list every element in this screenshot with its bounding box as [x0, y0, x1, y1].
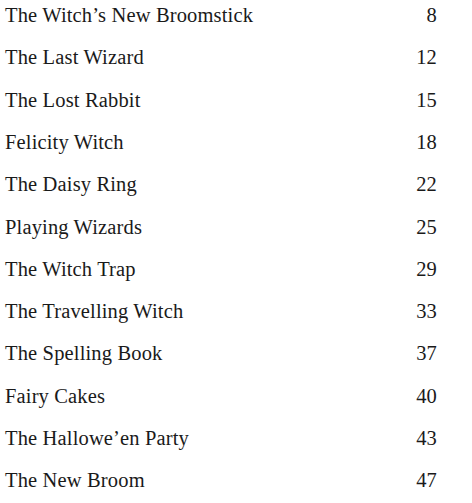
toc-entry-page-number: 47: [416, 470, 437, 491]
toc-entry[interactable]: The Hallowe’en Party 43: [0, 428, 472, 470]
toc-entry-page-number: 33: [416, 301, 437, 322]
toc-entry[interactable]: Playing Wizards 25: [0, 217, 472, 259]
toc-entry-title: The Witch Trap: [5, 259, 136, 280]
toc-entry[interactable]: The New Broom 47: [0, 470, 472, 503]
toc-entry[interactable]: The Spelling Book 37: [0, 343, 472, 385]
toc-entry[interactable]: Fairy Cakes 40: [0, 386, 472, 428]
toc-entry[interactable]: The Lost Rabbit 15: [0, 90, 472, 132]
toc-entry-page-number: 18: [416, 132, 437, 153]
toc-entry-title: The Hallowe’en Party: [5, 428, 189, 449]
toc-entry-title: Fairy Cakes: [5, 386, 105, 407]
toc-entry[interactable]: The Travelling Witch 33: [0, 301, 472, 343]
toc-entry-title: The Spelling Book: [5, 343, 162, 364]
toc-entry-page-number: 43: [416, 428, 437, 449]
toc-entry-title: The New Broom: [5, 470, 145, 491]
toc-entry[interactable]: The Daisy Ring 22: [0, 174, 472, 216]
toc-entry-page-number: 8: [427, 5, 437, 26]
toc-entry-title: The Lost Rabbit: [5, 90, 140, 111]
toc-entry-title: The Witch’s New Broomstick: [5, 5, 253, 26]
toc-entry-page-number: 40: [416, 386, 437, 407]
toc-entry-title: The Daisy Ring: [5, 174, 137, 195]
toc-entry-title: Felicity Witch: [5, 132, 124, 153]
toc-entry-title: The Travelling Witch: [5, 301, 183, 322]
toc-entry-page-number: 37: [416, 343, 437, 364]
toc-entry-title: Playing Wizards: [5, 217, 142, 238]
toc-entry[interactable]: The Witch’s New Broomstick 8: [0, 5, 472, 47]
toc-entry[interactable]: Felicity Witch 18: [0, 132, 472, 174]
toc-entry-page-number: 29: [416, 259, 437, 280]
toc-entry-page-number: 25: [416, 217, 437, 238]
toc-entry-page-number: 22: [416, 174, 437, 195]
toc-entry[interactable]: The Witch Trap 29: [0, 259, 472, 301]
toc-entry-page-number: 12: [416, 47, 437, 68]
table-of-contents: The Witch’s New Broomstick 8 The Last Wi…: [0, 0, 472, 503]
toc-entry[interactable]: The Last Wizard 12: [0, 47, 472, 89]
toc-entry-title: The Last Wizard: [5, 47, 144, 68]
toc-entry-page-number: 15: [416, 90, 437, 111]
